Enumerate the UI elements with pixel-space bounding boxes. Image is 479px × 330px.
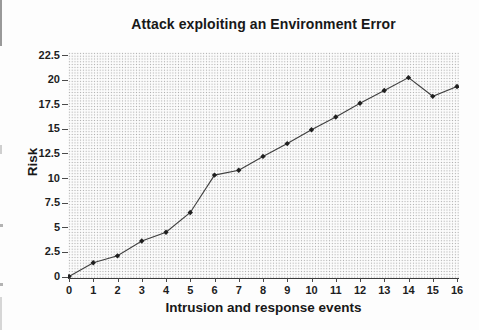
x-tick-label: 13 — [371, 284, 397, 296]
x-axis-label: Intrusion and response events — [68, 300, 459, 315]
y-tick-mark — [62, 104, 68, 105]
x-tick-mark — [239, 278, 240, 282]
y-tick-mark — [62, 252, 68, 253]
y-tick-mark — [62, 178, 68, 179]
data-point-marker — [91, 260, 96, 265]
y-tick-label: 2.5 — [14, 245, 60, 258]
x-tick-mark — [287, 278, 288, 282]
x-tick-label: 2 — [105, 284, 131, 296]
y-tick-mark — [62, 277, 68, 278]
data-point-marker — [309, 127, 314, 132]
y-tick-mark — [62, 203, 68, 204]
scan-artifact-top-line — [0, 0, 2, 46]
x-tick-mark — [69, 278, 70, 282]
x-tick-label: 11 — [323, 284, 349, 296]
scan-artifact-dot — [0, 224, 3, 227]
data-point-marker — [382, 88, 387, 93]
y-tick-label: 22.5 — [14, 49, 60, 62]
data-point-marker — [139, 238, 144, 243]
y-tick-label: 0 — [14, 270, 60, 283]
x-tick-label: 15 — [420, 284, 446, 296]
x-tick-mark — [215, 278, 216, 282]
x-tick-mark — [457, 278, 458, 282]
x-tick-label: 6 — [202, 284, 228, 296]
x-tick-label: 8 — [250, 284, 276, 296]
y-tick-label: 17.5 — [14, 98, 60, 111]
x-tick-label: 7 — [226, 284, 252, 296]
data-point-marker — [115, 253, 120, 258]
scan-artifact-mid-mark — [0, 145, 2, 154]
y-tick-label: 10 — [14, 172, 60, 185]
plot-area — [68, 52, 459, 279]
x-tick-label: 14 — [396, 284, 422, 296]
chart-title: Attack exploiting an Environment Error — [68, 16, 459, 32]
data-point-marker — [212, 172, 217, 177]
y-tick-mark — [62, 129, 68, 130]
x-tick-label: 5 — [177, 284, 203, 296]
x-tick-mark — [360, 278, 361, 282]
x-tick-label: 0 — [56, 284, 82, 296]
x-tick-mark — [190, 278, 191, 282]
data-point-marker — [285, 141, 290, 146]
x-tick-label: 1 — [80, 284, 106, 296]
risk-line — [69, 78, 457, 277]
y-tick-mark — [62, 55, 68, 56]
scan-artifact-dot — [0, 283, 3, 286]
risk-line-series — [68, 52, 459, 278]
x-tick-label: 16 — [444, 284, 470, 296]
y-tick-mark — [62, 227, 68, 228]
x-tick-label: 10 — [299, 284, 325, 296]
x-tick-label: 12 — [347, 284, 373, 296]
scan-artifact-bottom-line — [0, 297, 2, 330]
data-point-marker — [333, 114, 338, 119]
y-tick-label: 15 — [14, 122, 60, 135]
x-tick-label: 4 — [153, 284, 179, 296]
data-point-marker — [454, 84, 459, 89]
data-point-marker — [357, 101, 362, 106]
x-tick-label: 9 — [274, 284, 300, 296]
x-tick-mark — [118, 278, 119, 282]
x-tick-mark — [93, 278, 94, 282]
figure: Attack exploiting an Environment Error R… — [0, 0, 479, 330]
x-tick-mark — [312, 278, 313, 282]
y-tick-label: 20 — [14, 73, 60, 86]
x-tick-mark — [384, 278, 385, 282]
x-tick-mark — [142, 278, 143, 282]
x-tick-mark — [263, 278, 264, 282]
data-point-marker — [236, 167, 241, 172]
y-tick-mark — [62, 153, 68, 154]
y-tick-label: 5 — [14, 221, 60, 234]
x-tick-label: 3 — [129, 284, 155, 296]
data-point-marker — [260, 154, 265, 159]
y-tick-label: 12.5 — [14, 147, 60, 160]
y-tick-mark — [62, 80, 68, 81]
x-tick-mark — [409, 278, 410, 282]
x-tick-mark — [336, 278, 337, 282]
y-tick-label: 7.5 — [14, 196, 60, 209]
x-tick-mark — [166, 278, 167, 282]
x-tick-mark — [433, 278, 434, 282]
